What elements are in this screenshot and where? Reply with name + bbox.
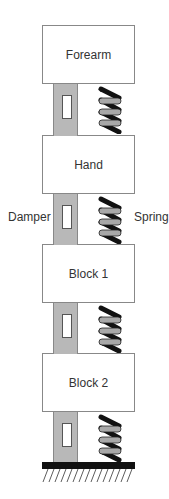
damper-3: [53, 303, 78, 354]
damper-slot: [62, 314, 72, 338]
damper-1: [53, 84, 78, 136]
damper-slot: [62, 205, 72, 229]
spring-icon: [97, 414, 125, 462]
damper-label: Damper: [8, 210, 51, 224]
ground-hatch-icon: [40, 469, 135, 483]
spring-label: Spring: [134, 210, 169, 224]
damper-slot: [62, 423, 72, 447]
block-label: Block 1: [69, 267, 108, 281]
damper-slot: [62, 95, 72, 119]
block-label: Hand: [74, 158, 103, 172]
spring-icon: [97, 86, 125, 134]
damper-2: [53, 194, 78, 245]
block-forearm: Forearm: [42, 25, 135, 84]
spring-icon: [97, 305, 125, 353]
block-hand: Hand: [42, 135, 135, 194]
block-2: Block 2: [42, 353, 135, 412]
ground-plate: [42, 462, 135, 469]
block-label: Block 2: [69, 376, 108, 390]
damper-4: [53, 412, 78, 463]
block-label: Forearm: [66, 48, 111, 62]
block-1: Block 1: [42, 244, 135, 303]
spring-icon: [97, 196, 125, 244]
